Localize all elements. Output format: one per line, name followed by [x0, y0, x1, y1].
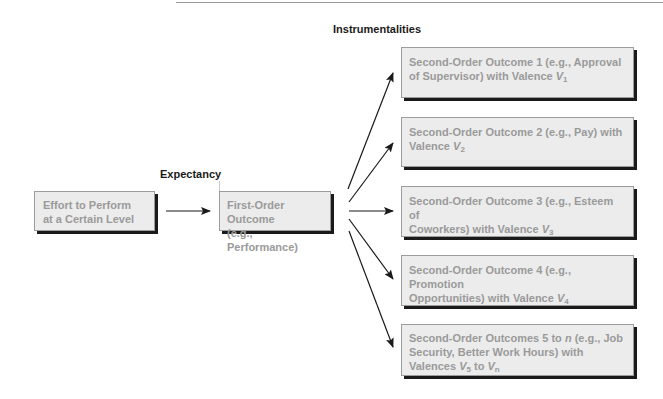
- instrumentality-arrow-2: [349, 143, 393, 202]
- arrows-layer: [0, 0, 663, 399]
- instrumentality-arrow-1: [348, 73, 393, 189]
